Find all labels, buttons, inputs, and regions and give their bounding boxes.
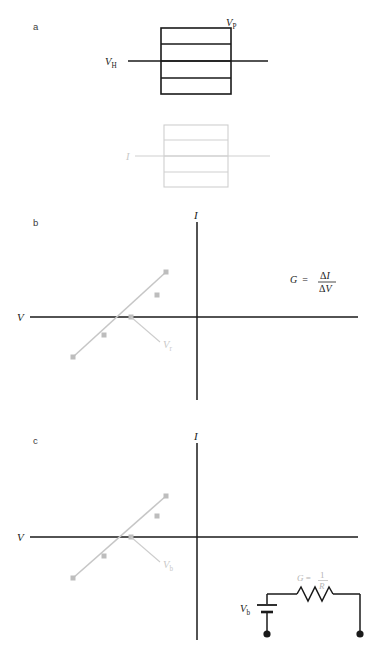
circuit-source-label: Vb (240, 603, 250, 617)
panel-b-curve-label: Vr (163, 339, 172, 353)
panel-c-data-point (164, 494, 169, 499)
panel-c-x-axis-label: V (17, 531, 25, 543)
panel-c-curve-label: Vb (163, 559, 173, 573)
panel-b-y-axis-label: I (193, 209, 199, 221)
circuit-diagram: G = 1 R Vb (240, 570, 364, 638)
formula-lhs: G = (290, 274, 308, 285)
circuit-formula-lhs: G = (297, 573, 311, 583)
figure-canvas: a VH VP I b V I (0, 0, 383, 655)
label-vh: VH (105, 56, 117, 70)
panel-b-data-series (71, 270, 169, 360)
panel-b-x-axis-label: V (17, 311, 25, 323)
panel-b: b V I Vr G = ΔI ΔV (17, 209, 358, 400)
formula-numerator: ΔI (320, 270, 330, 281)
label-ghost-i: I (125, 151, 130, 162)
panel-b-data-point (71, 355, 76, 360)
panel-b-letter: b (33, 217, 38, 228)
panel-b-trendline (73, 272, 166, 357)
panel-c-y-axis-label: I (193, 430, 199, 442)
panel-a-letter: a (33, 21, 39, 32)
circuit-formula-numerator: 1 (320, 570, 325, 580)
panel-b-data-point (164, 270, 169, 275)
panel-c-data-point (102, 554, 107, 559)
panel-c: c V I Vb G = 1 R (17, 430, 364, 640)
circuit-terminal-left (263, 630, 270, 637)
figure-root: a VH VP I b V I (0, 0, 383, 655)
panel-b-data-point (102, 333, 107, 338)
panel-c-data-point (71, 576, 76, 581)
circuit-terminal-right (356, 630, 363, 637)
circuit-formula-denominator: R (318, 581, 325, 591)
panel-b-formula: G = ΔI ΔV (290, 270, 336, 294)
formula-denominator: ΔV (319, 283, 333, 294)
panel-b-annotation-leader (131, 317, 160, 342)
panel-a: a VH VP I (33, 17, 270, 187)
panel-c-data-point (155, 514, 160, 519)
panel-c-letter: c (33, 435, 38, 446)
panel-c-annotation-leader (131, 537, 160, 562)
resistor-icon (297, 587, 333, 601)
panel-b-data-point (155, 293, 160, 298)
